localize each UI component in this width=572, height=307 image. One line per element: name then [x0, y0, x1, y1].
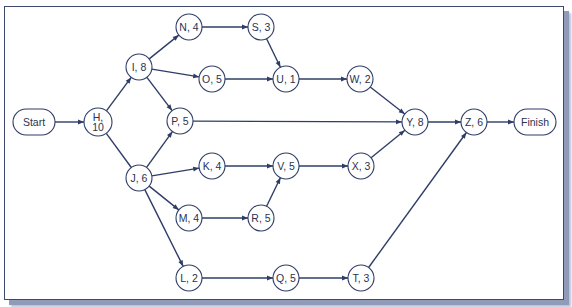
node-label: Z, 6 [465, 116, 483, 128]
node-u: U, 1 [273, 66, 299, 92]
node-v: V, 5 [273, 153, 299, 179]
edge-t-to-z [369, 133, 467, 268]
edge-i-to-o [152, 69, 199, 77]
node-y: Y, 8 [402, 109, 428, 135]
node-t: T, 3 [348, 265, 374, 291]
node-label: T, 3 [353, 272, 370, 284]
node-label: O, 5 [202, 73, 222, 85]
node-r: R, 5 [248, 205, 274, 231]
node-label: V, 5 [277, 160, 295, 172]
edge-s-to-u [267, 39, 281, 68]
edge-h-to-i [106, 77, 131, 110]
node-q: Q, 5 [273, 265, 299, 291]
node-o: O, 5 [199, 66, 225, 92]
node-label: K, 4 [203, 160, 222, 172]
edge-h-to-j [106, 133, 131, 167]
node-label: Q, 5 [276, 272, 296, 284]
node-label: M, 4 [179, 212, 200, 224]
node-j: J, 6 [126, 165, 152, 191]
edge-r-to-v [267, 178, 281, 207]
node-label-line2: 10 [92, 121, 104, 133]
node-finish: Finish [514, 109, 556, 135]
node-s: S, 3 [248, 14, 274, 40]
node-z: Z, 6 [461, 109, 487, 135]
node-label: R, 5 [251, 212, 270, 224]
node-label: J, 6 [131, 172, 148, 184]
edge-j-to-k [152, 168, 199, 176]
node-label: P, 5 [171, 115, 188, 127]
node-label: X, 3 [352, 160, 371, 172]
edge-j-to-l [145, 190, 183, 267]
node-m: M, 4 [176, 205, 202, 231]
edge-w-to-y [370, 87, 405, 114]
network-diagram: StartH,10I, 8J, 6N, 4S, 3O, 5U, 1W, 2P, … [0, 0, 572, 307]
edge-i-to-n [149, 35, 179, 59]
node-label: L, 2 [180, 272, 198, 284]
node-l: L, 2 [176, 265, 202, 291]
node-i: I, 8 [126, 54, 152, 80]
node-label: Start [23, 116, 45, 128]
edge-i-to-p [147, 77, 172, 110]
edge-p-to-y [193, 121, 402, 122]
node-p: P, 5 [167, 108, 193, 134]
node-w: W, 2 [347, 66, 373, 92]
node-n: N, 4 [176, 14, 202, 40]
node-x: X, 3 [348, 153, 374, 179]
node-label: Y, 8 [406, 116, 423, 128]
node-label: S, 3 [252, 21, 271, 33]
node-label: N, 4 [179, 21, 198, 33]
node-label: Finish [521, 116, 549, 128]
node-k: K, 4 [199, 153, 225, 179]
node-label: U, 1 [276, 73, 295, 85]
nodes-layer: StartH,10I, 8J, 6N, 4S, 3O, 5U, 1W, 2P, … [13, 14, 556, 291]
edge-x-to-y [371, 130, 405, 158]
node-label: I, 8 [132, 61, 147, 73]
node-start: Start [13, 109, 55, 135]
node-label: W, 2 [349, 73, 370, 85]
edge-j-to-p [147, 132, 173, 168]
edges-layer [55, 27, 514, 278]
node-h: H,10 [84, 108, 112, 136]
